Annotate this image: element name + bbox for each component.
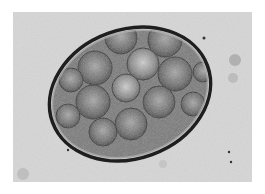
micrograph (13, 12, 252, 182)
micrograph-svg (13, 12, 252, 182)
